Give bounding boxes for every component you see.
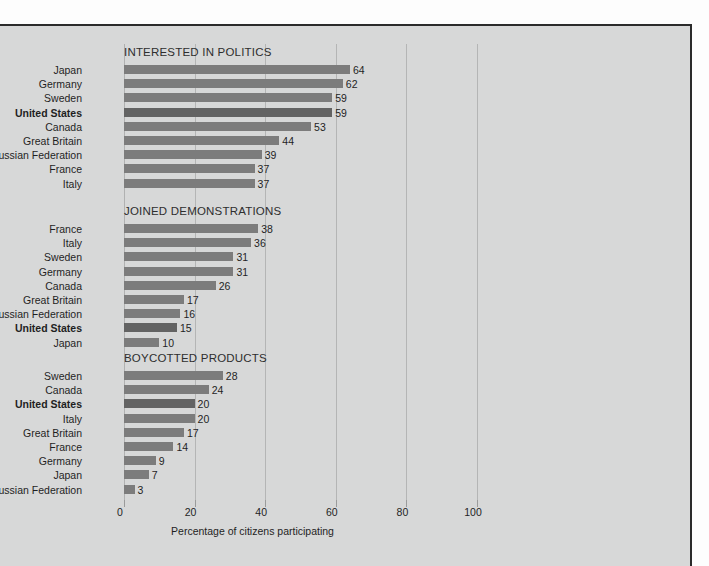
bar-row: France37: [0, 162, 690, 176]
bar-value-label: 17: [187, 427, 199, 439]
bar-value-label: 59: [335, 107, 347, 119]
bar-value-label: 64: [353, 64, 365, 76]
bar-category-label: Russian Federation: [0, 484, 82, 496]
bar: [124, 414, 195, 423]
bar-value-label: 59: [335, 92, 347, 104]
bar-row: Canada24: [0, 383, 690, 397]
axis-tick-label-60: 60: [326, 506, 338, 518]
bar-value-label: 7: [152, 469, 158, 481]
bar-category-label: Sweden: [44, 92, 82, 104]
bar: [124, 281, 216, 290]
bar-category-label: France: [49, 223, 82, 235]
bar-value-label: 16: [183, 308, 195, 320]
bar-category-label: Canada: [45, 384, 82, 396]
bar-category-label: Germany: [39, 78, 82, 90]
bar-row: Canada26: [0, 279, 690, 293]
panel-rows: Japan64Germany62Sweden59United States59C…: [0, 63, 690, 191]
bar: [124, 238, 251, 247]
panel-title: INTERESTED IN POLITICS: [124, 46, 272, 58]
bar-value-label: 20: [198, 413, 210, 425]
bar-row: Sweden28: [0, 369, 690, 383]
bar-category-label: Italy: [63, 237, 82, 249]
bar-category-label: Japan: [53, 337, 82, 349]
chart-page: INTERESTED IN POLITICSJapan64Germany62Sw…: [0, 0, 709, 566]
bar-row: United States20: [0, 397, 690, 411]
bar-value-label: 37: [258, 178, 270, 190]
bar-category-label: Sweden: [44, 251, 82, 263]
bar-row: France38: [0, 222, 690, 236]
bar-category-label: France: [49, 441, 82, 453]
bar-row: Japan64: [0, 63, 690, 77]
bar-value-label: 31: [236, 251, 248, 263]
bar: [124, 456, 156, 465]
bar-category-label: Japan: [53, 64, 82, 76]
bar: [124, 79, 343, 88]
bar-value-label: 15: [180, 322, 192, 334]
bar: [124, 108, 332, 117]
bar: [124, 122, 311, 131]
bar-category-label: Great Britain: [23, 294, 82, 306]
bar-row: Italy20: [0, 412, 690, 426]
bar: [124, 323, 177, 332]
bar: [124, 442, 173, 451]
bar-value-label: 62: [346, 78, 358, 90]
bar-value-label: 36: [254, 237, 266, 249]
bar: [124, 93, 332, 102]
bar-value-label: 3: [138, 484, 144, 496]
bar: [124, 164, 255, 173]
bar-category-label: Japan: [53, 469, 82, 481]
bar: [124, 428, 184, 437]
bar: [124, 470, 149, 479]
bar-row: Russian Federation39: [0, 148, 690, 162]
bar-value-label: 26: [219, 280, 231, 292]
bar-category-label: France: [49, 163, 82, 175]
bar-row: Germany9: [0, 454, 690, 468]
bar: [124, 224, 258, 233]
bar-category-label: Germany: [39, 266, 82, 278]
x-axis: 020406080100: [0, 500, 690, 520]
bar: [124, 267, 233, 276]
bar-row: Canada53: [0, 120, 690, 134]
bar-row: Germany31: [0, 265, 690, 279]
x-axis-title: Percentage of citizens participating: [0, 525, 505, 537]
bar: [124, 309, 180, 318]
bar: [124, 65, 350, 74]
bar-category-label: Great Britain: [23, 427, 82, 439]
axis-tick-label-80: 80: [397, 506, 409, 518]
bar-category-label: Sweden: [44, 370, 82, 382]
bar-value-label: 24: [212, 384, 224, 396]
bar: [124, 371, 223, 380]
bar-value-label: 14: [176, 441, 188, 453]
bar-value-label: 38: [261, 223, 273, 235]
bar-value-label: 9: [159, 455, 165, 467]
panel-title: JOINED DEMONSTRATIONS: [124, 205, 281, 217]
bar-row: United States59: [0, 106, 690, 120]
bar-category-label: Russian Federation: [0, 308, 82, 320]
bar-value-label: 39: [265, 149, 277, 161]
axis-tick-label-20: 20: [185, 506, 197, 518]
bar-row: Italy36: [0, 236, 690, 250]
bar: [124, 485, 135, 494]
bar-category-label: Italy: [63, 178, 82, 190]
bar-category-label: Great Britain: [23, 135, 82, 147]
bar: [124, 150, 262, 159]
bar-category-label: United States: [15, 322, 82, 334]
top-white-margin: [0, 0, 709, 24]
bar-row: France14: [0, 440, 690, 454]
bar-category-label: United States: [15, 107, 82, 119]
bar-value-label: 37: [258, 163, 270, 175]
bar-row: Russian Federation3: [0, 483, 690, 497]
bar: [124, 338, 159, 347]
bar-row: Japan7: [0, 468, 690, 482]
bar-row: Sweden59: [0, 91, 690, 105]
bar: [124, 385, 209, 394]
panel-title: BOYCOTTED PRODUCTS: [124, 352, 267, 364]
bar: [124, 295, 184, 304]
right-white-margin: [692, 0, 709, 566]
bar-category-label: Canada: [45, 121, 82, 133]
bar-row: Sweden31: [0, 250, 690, 264]
bar-value-label: 31: [236, 266, 248, 278]
bar: [124, 399, 195, 408]
axis-tick-label-100: 100: [464, 506, 482, 518]
bar-row: Italy37: [0, 177, 690, 191]
